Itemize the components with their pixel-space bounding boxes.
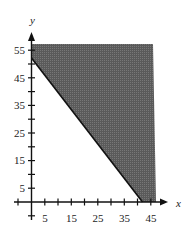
svg-text:25: 25 bbox=[93, 212, 105, 224]
y-axis-label: y bbox=[29, 14, 35, 26]
x-tick-labels: 5 15 25 35 45 bbox=[42, 212, 157, 224]
svg-text:45: 45 bbox=[14, 72, 26, 84]
svg-text:5: 5 bbox=[42, 212, 48, 224]
svg-text:15: 15 bbox=[66, 212, 78, 224]
x-axis-arrow bbox=[160, 199, 168, 206]
svg-text:5: 5 bbox=[20, 182, 26, 194]
shaded-region bbox=[32, 44, 157, 202]
y-tick-labels: 55 45 35 25 15 5 bbox=[14, 44, 26, 194]
chart: 5 15 25 35 45 55 45 35 25 15 5 x y bbox=[0, 0, 188, 238]
svg-text:45: 45 bbox=[146, 212, 158, 224]
svg-text:35: 35 bbox=[14, 99, 26, 111]
x-axis-label: x bbox=[175, 197, 181, 209]
svg-text:15: 15 bbox=[14, 154, 26, 166]
svg-text:35: 35 bbox=[119, 212, 131, 224]
svg-text:25: 25 bbox=[14, 127, 26, 139]
svg-text:55: 55 bbox=[14, 44, 26, 56]
y-axis-arrow bbox=[28, 32, 35, 41]
